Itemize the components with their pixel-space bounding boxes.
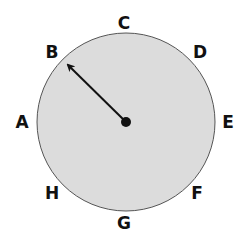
label-c: C xyxy=(118,13,130,33)
label-h: H xyxy=(45,183,59,203)
label-g: G xyxy=(117,213,131,233)
label-d: D xyxy=(193,42,207,62)
label-b: B xyxy=(46,42,59,62)
label-a: A xyxy=(15,112,29,132)
label-f: F xyxy=(191,183,203,203)
label-e: E xyxy=(222,112,234,132)
pivot-dot xyxy=(121,117,131,127)
dial-diagram: A B C D E F G H xyxy=(0,0,240,241)
